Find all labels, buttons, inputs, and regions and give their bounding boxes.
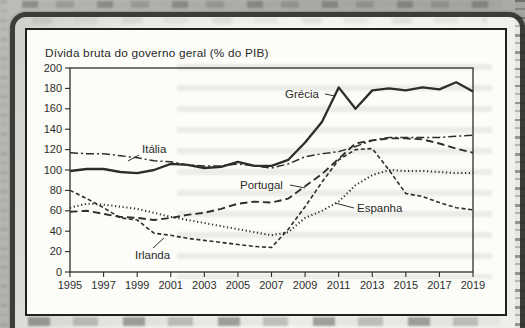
x-tick-label: 2011 <box>327 279 351 291</box>
series-label-leader-espanha <box>335 203 354 208</box>
x-tick-label: 1995 <box>58 279 82 291</box>
x-tick-label: 2003 <box>192 279 216 291</box>
x-tick-label: 2007 <box>259 279 283 291</box>
series-line-italia <box>70 135 473 168</box>
x-tick-label: 1999 <box>125 279 149 291</box>
scan-artifact-inner-top-smudge <box>32 17 487 24</box>
scan-artifact-top-text-smudge <box>22 1 502 8</box>
y-tick-label: 120 <box>44 143 62 155</box>
series-label-grecia: Grécia <box>285 88 319 100</box>
series-label-espanha: Espanha <box>357 202 403 214</box>
series-line-irlanda <box>70 149 473 248</box>
y-tick-label: 200 <box>44 62 62 74</box>
chart-title: Dívida bruta do governo geral (% do PIB) <box>45 46 269 60</box>
y-tick-label: 0 <box>56 266 62 278</box>
scanned-page: Dívida bruta do governo geral (% do PIB)… <box>0 0 525 328</box>
series-label-irlanda: Irlanda <box>135 249 171 261</box>
series-label-leader-irlanda <box>153 238 164 248</box>
y-tick-label: 140 <box>44 123 62 135</box>
y-tick-label: 80 <box>50 184 62 196</box>
y-tick-label: 180 <box>44 82 62 94</box>
series-label-italia: Itália <box>142 143 167 155</box>
x-tick-label: 2013 <box>360 279 384 291</box>
x-tick-label: 2015 <box>394 279 418 291</box>
y-tick-label: 40 <box>50 225 62 237</box>
x-tick-label: 2001 <box>159 279 183 291</box>
scan-artifact-left-edge <box>0 0 7 328</box>
scan-artifact-right-edge <box>515 0 525 328</box>
x-tick-label: 2005 <box>226 279 250 291</box>
series-label-leader-portugal <box>290 185 305 188</box>
y-tick-label: 60 <box>50 204 62 216</box>
line-chart: 0204060801001201401601802001995199719992… <box>27 30 501 310</box>
chart-panel: Dívida bruta do governo geral (% do PIB)… <box>25 28 507 316</box>
scan-artifact-caption-smudge <box>28 317 500 326</box>
x-tick-label: 1997 <box>91 279 115 291</box>
x-tick-label: 2017 <box>427 279 451 291</box>
y-tick-label: 160 <box>44 102 62 114</box>
series-label-leader-grecia <box>325 94 335 96</box>
x-tick-label: 2019 <box>461 279 485 291</box>
y-tick-label: 20 <box>50 245 62 257</box>
series-label-portugal: Portugal <box>240 179 283 191</box>
x-tick-label: 2009 <box>293 279 317 291</box>
y-tick-label: 100 <box>44 164 62 176</box>
